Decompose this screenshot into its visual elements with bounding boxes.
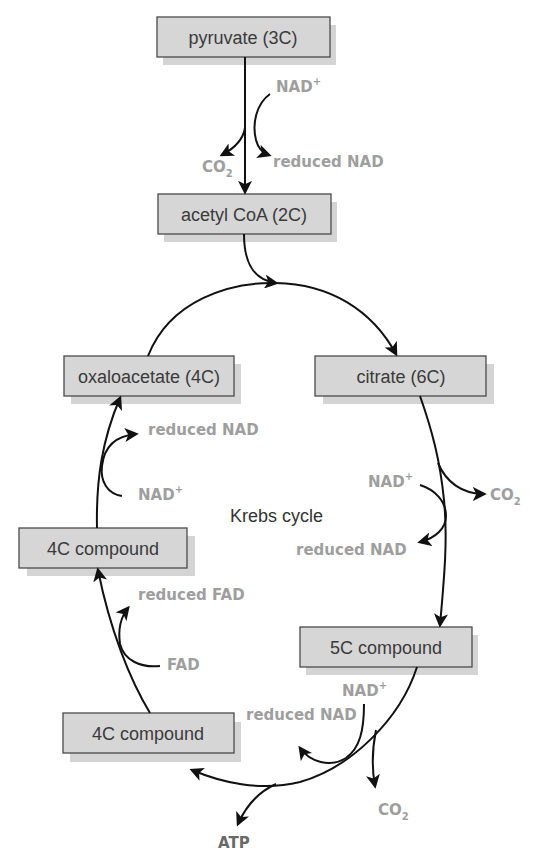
citrate-co2-label: CO2 bbox=[490, 486, 521, 507]
compound-4c-upper-label: 4C compound bbox=[47, 539, 159, 559]
oxa-reduced-nad-label: reduced NAD bbox=[148, 421, 259, 439]
c5-co2-label: CO2 bbox=[378, 801, 409, 822]
pyruvate-box: pyruvate (3C) bbox=[157, 17, 336, 65]
link-reduced-nad-label: reduced NAD bbox=[273, 153, 384, 171]
acetyl-coa-box: acetyl CoA (2C) bbox=[158, 194, 337, 242]
citrate-box: citrate (6C) bbox=[315, 356, 494, 404]
krebs-cycle-title: Krebs cycle bbox=[230, 506, 323, 526]
compound-5c-box: 5C compound bbox=[300, 627, 478, 675]
fad-arrow bbox=[119, 608, 160, 666]
citrate-label: citrate (6C) bbox=[356, 367, 445, 387]
citrate-reduced-nad-label: reduced NAD bbox=[296, 541, 407, 559]
oxa-nad-label: NAD+ bbox=[138, 484, 183, 504]
acetyl-coa-label: acetyl CoA (2C) bbox=[181, 205, 307, 225]
compound-4c-upper-box: 4C compound bbox=[19, 528, 195, 576]
4c-upper-to-oxaloacetate-arrow bbox=[97, 398, 120, 528]
oxaloacetate-label: oxaloacetate (4C) bbox=[78, 367, 220, 387]
oxaloacetate-to-citrate-arrow bbox=[148, 283, 396, 356]
link-nad-label: NAD+ bbox=[276, 76, 321, 96]
link-co2-label: CO2 bbox=[202, 158, 233, 179]
citrate-nad-label: NAD+ bbox=[368, 471, 413, 491]
c5-nad-label: NAD+ bbox=[342, 680, 387, 700]
atp-arrow bbox=[238, 784, 276, 824]
oxa-nad-arrow bbox=[102, 434, 136, 496]
nad-reduce-arrow bbox=[255, 94, 270, 155]
c5-reduced-nad-label: reduced NAD bbox=[246, 706, 357, 724]
c5-atp-label: ATP bbox=[218, 834, 250, 852]
compound-5c-label: 5C compound bbox=[330, 638, 442, 658]
co2-release-arrow bbox=[222, 128, 245, 155]
reduced-fad-label: reduced FAD bbox=[138, 586, 245, 604]
oxaloacetate-box: oxaloacetate (4C) bbox=[64, 356, 241, 404]
5c-co2-arrow bbox=[373, 730, 376, 786]
citrate-nad-arrow bbox=[420, 485, 446, 542]
krebs-cycle-diagram: pyruvate (3C) acetyl CoA (2C) oxaloaceta… bbox=[0, 0, 538, 866]
citrate-to-5c-arrow bbox=[420, 396, 446, 625]
fad-label: FAD bbox=[167, 656, 200, 674]
compound-4c-lower-label: 4C compound bbox=[92, 724, 204, 744]
pyruvate-label: pyruvate (3C) bbox=[188, 28, 297, 48]
compound-4c-lower-box: 4C compound bbox=[63, 713, 241, 762]
citrate-co2-arrow bbox=[438, 463, 484, 494]
